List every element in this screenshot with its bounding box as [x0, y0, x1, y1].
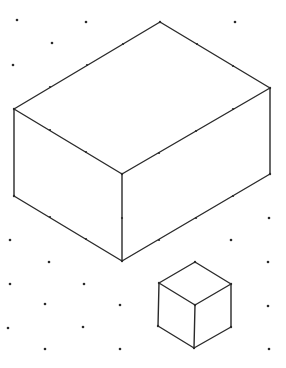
vertex-dot: [194, 304, 196, 306]
edge-dot: [195, 130, 197, 132]
grid-dot: [234, 21, 237, 24]
grid-dot: [9, 283, 12, 286]
grid-dot: [230, 239, 233, 242]
vertex-dot: [269, 173, 271, 175]
vertex-dot: [230, 283, 232, 285]
edge-dot: [49, 86, 51, 88]
vertex-dot: [193, 347, 195, 349]
vertex-dot: [159, 21, 161, 23]
edge-dot: [49, 129, 51, 131]
edge-dot: [195, 217, 197, 219]
vertex-dot: [121, 173, 123, 175]
grid-dot: [267, 261, 270, 264]
grid-dot: [82, 326, 85, 329]
grid-dot: [268, 348, 271, 351]
vertex-dot: [13, 195, 15, 197]
vertex-dot: [269, 87, 271, 89]
edge-dot: [232, 65, 234, 67]
edge-dot: [86, 64, 88, 66]
vertex-dot: [13, 108, 15, 110]
edge-dot: [232, 108, 234, 110]
vertex-dot: [157, 325, 159, 327]
vertex-dot: [158, 282, 160, 284]
edge-dot: [158, 152, 160, 154]
grid-dot: [7, 327, 10, 330]
grid-dot: [44, 303, 47, 306]
vertex-dot: [230, 326, 232, 328]
edge-dot: [122, 43, 124, 45]
grid-dot: [85, 21, 88, 24]
grid-dot: [51, 42, 54, 45]
grid-dot: [9, 239, 12, 242]
grid-dot: [83, 283, 86, 286]
grid-dot: [16, 19, 19, 22]
grid-dot: [12, 64, 15, 67]
edge-dot: [85, 238, 87, 240]
shapes: [14, 22, 270, 348]
edge-dot: [49, 216, 51, 218]
grid-dot: [267, 305, 270, 308]
grid-dot: [119, 304, 122, 307]
edge-dot: [158, 239, 160, 241]
large-rectangular-prism: [14, 22, 270, 261]
vertex-dot: [121, 260, 123, 262]
edge-dot: [121, 217, 123, 219]
large-rectangular-prism-outline: [14, 22, 270, 261]
grid-dot: [119, 348, 122, 351]
isometric-dot-grid-diagram: [0, 0, 286, 368]
edge-dot: [232, 195, 234, 197]
grid-dot: [44, 348, 47, 351]
vertex-dot: [194, 261, 196, 263]
grid-dot: [48, 261, 51, 264]
edge-dot: [85, 151, 87, 153]
small-cube-front-vertical-edge: [194, 305, 195, 348]
edge-dot: [196, 43, 198, 45]
grid-dot: [268, 217, 271, 220]
